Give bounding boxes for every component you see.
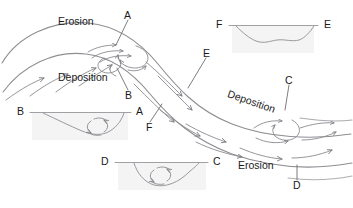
inset-dc-label-left: D <box>101 156 109 167</box>
meander-plan-view <box>0 0 353 208</box>
label-section-d-plan: D <box>293 180 301 191</box>
label-erosion-top: Erosion <box>58 16 94 27</box>
inset-fe-label-left: F <box>216 19 222 30</box>
channel-bank-inner <box>3 53 352 167</box>
label-section-a-plan: A <box>124 10 131 21</box>
inset-cross-section-fe <box>229 25 318 53</box>
channel-bank-outer-extension <box>288 118 352 180</box>
label-section-f-plan: F <box>146 122 152 133</box>
river-meander-diagram: Erosion Deposition Deposition Erosion A … <box>0 0 353 208</box>
inset-fe-label-right: E <box>324 19 331 30</box>
leader-line-a <box>116 20 128 45</box>
label-section-c-plan: C <box>285 75 293 86</box>
inset-dc-label-right: C <box>213 156 221 167</box>
inset-cross-section-ba <box>30 112 131 140</box>
label-erosion-bottom: Erosion <box>238 160 274 171</box>
leader-line-e <box>188 58 206 88</box>
inset-ba-label-right: A <box>136 106 143 117</box>
leader-line-f <box>150 104 162 122</box>
flow-arrows-midreach <box>134 62 242 157</box>
label-section-b-plan: B <box>125 90 132 101</box>
helical-eddy-right-bend <box>240 120 336 159</box>
label-deposition-left: Deposition <box>58 72 108 83</box>
label-section-e-plan: E <box>203 48 210 59</box>
inset-cross-section-dc <box>115 162 208 190</box>
leader-line-c <box>285 85 289 110</box>
inset-ba-label-left: B <box>17 106 24 117</box>
